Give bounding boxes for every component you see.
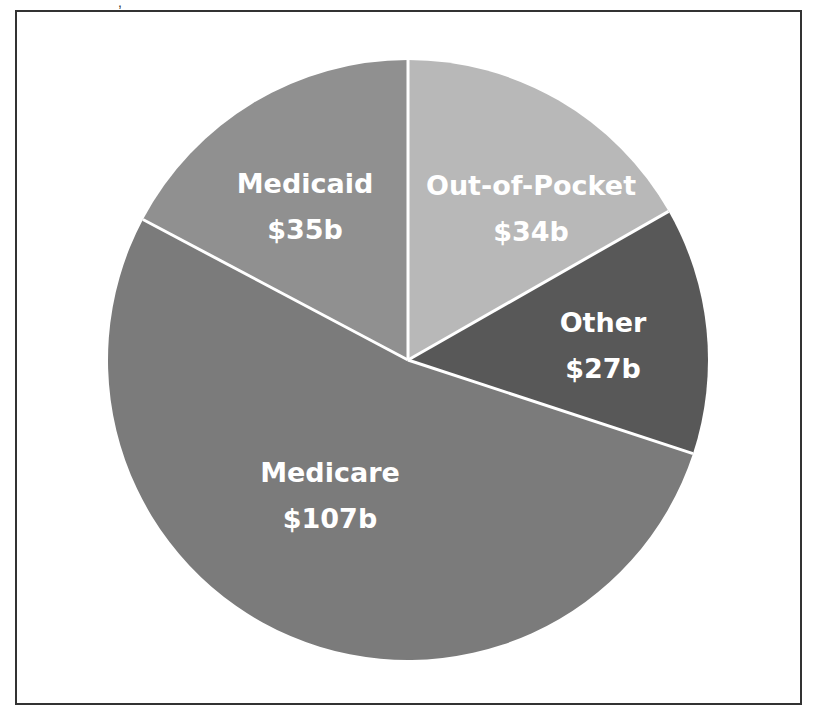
slice-value-label: $107b [283, 503, 377, 534]
pie-chart: Out-of-Pocket$34bOther$27bMedicare$107bM… [0, 0, 813, 715]
slice-name-label: Medicaid [237, 168, 374, 199]
slice-name-label: Medicare [260, 457, 400, 488]
slice-value-label: $27b [565, 353, 641, 384]
slice-value-label: $34b [493, 216, 569, 247]
slice-name-label: Other [560, 307, 647, 338]
slice-value-label: $35b [267, 214, 343, 245]
slice-name-label: Out-of-Pocket [426, 170, 636, 201]
